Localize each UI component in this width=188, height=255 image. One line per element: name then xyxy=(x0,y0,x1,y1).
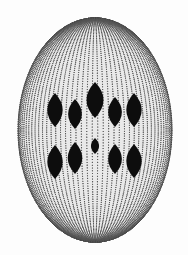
spindle-fiber-dot xyxy=(155,84,156,85)
spindle-fiber-dot xyxy=(154,115,155,116)
spindle-fiber-dot xyxy=(77,50,78,51)
spindle-fiber-dot xyxy=(138,82,139,83)
spindle-fiber-dot xyxy=(89,41,90,42)
spindle-fiber-dot xyxy=(51,207,52,208)
spindle-fiber-dot xyxy=(151,64,152,65)
spindle-fiber-dot xyxy=(36,106,37,107)
spindle-fiber-dot xyxy=(49,195,50,196)
spindle-fiber-dot xyxy=(109,55,110,56)
spindle-fiber-dot xyxy=(77,40,78,41)
spindle-fiber-dot xyxy=(106,190,107,191)
spindle-fiber-dot xyxy=(121,31,122,32)
spindle-fiber-dot xyxy=(51,53,52,54)
spindle-fiber-dot xyxy=(32,112,33,113)
spindle-fiber-dot xyxy=(33,68,34,69)
spindle-fiber-dot xyxy=(73,26,74,27)
spindle-fiber-dot xyxy=(123,66,124,67)
spindle-fiber-dot xyxy=(51,68,52,69)
spindle-fiber-dot xyxy=(154,65,155,66)
spindle-fiber-dot xyxy=(46,188,47,189)
spindle-fiber-dot xyxy=(93,226,94,227)
spindle-fiber-dot xyxy=(103,28,104,29)
spindle-fiber-dot xyxy=(159,169,160,170)
spindle-fiber-dot xyxy=(44,201,45,202)
spindle-fiber-dot xyxy=(115,191,116,192)
spindle-fiber-dot xyxy=(59,175,60,176)
spindle-fiber-dot xyxy=(118,194,119,195)
spindle-fiber-dot xyxy=(157,190,158,191)
spindle-fiber-dot xyxy=(38,169,39,170)
spindle-fiber-dot xyxy=(109,57,110,58)
spindle-fiber-dot xyxy=(99,219,100,220)
spindle-fiber-dot xyxy=(100,27,101,28)
spindle-fiber-dot xyxy=(60,60,61,61)
spindle-fiber-dot xyxy=(36,182,37,183)
spindle-fiber-dot xyxy=(38,132,39,133)
spindle-fiber-dot xyxy=(38,94,39,95)
spindle-fiber-dot xyxy=(125,75,126,76)
spindle-fiber-dot xyxy=(51,206,52,207)
spindle-fiber-dot xyxy=(139,198,140,199)
spindle-fiber-dot xyxy=(168,158,169,159)
spindle-fiber-dot xyxy=(143,73,144,74)
spindle-fiber-dot xyxy=(161,134,162,135)
spindle-fiber-dot xyxy=(167,118,168,119)
spindle-fiber-dot xyxy=(144,210,145,211)
spindle-fiber-dot xyxy=(86,231,87,232)
spindle-fiber-dot xyxy=(52,196,53,197)
spindle-fiber-dot xyxy=(133,219,134,220)
spindle-fiber-dot xyxy=(121,230,122,231)
spindle-fiber-dot xyxy=(110,217,111,218)
spindle-fiber-dot xyxy=(154,89,155,90)
spindle-fiber-dot xyxy=(125,181,126,182)
spindle-fiber-dot xyxy=(40,158,41,159)
spindle-fiber-dot xyxy=(51,125,52,126)
spindle-fiber-dot xyxy=(120,214,121,215)
spindle-fiber-dot xyxy=(143,121,144,122)
spindle-fiber-dot xyxy=(66,107,67,108)
spindle-fiber-dot xyxy=(30,102,31,103)
spindle-fiber-dot xyxy=(140,214,141,215)
spindle-fiber-dot xyxy=(92,205,93,206)
spindle-fiber-dot xyxy=(111,233,112,234)
spindle-fiber-dot xyxy=(114,45,115,46)
spindle-fiber-dot xyxy=(87,233,88,234)
spindle-fiber-dot xyxy=(43,195,44,196)
spindle-fiber-dot xyxy=(38,179,39,180)
spindle-fiber-dot xyxy=(75,226,76,227)
spindle-fiber-dot xyxy=(131,69,132,70)
spindle-fiber-dot xyxy=(105,231,106,232)
spindle-fiber-dot xyxy=(95,23,96,24)
spindle-fiber-dot xyxy=(71,102,72,103)
spindle-fiber-dot xyxy=(140,48,141,49)
spindle-fiber-dot xyxy=(81,144,82,145)
spindle-fiber-dot xyxy=(61,201,62,202)
spindle-fiber-dot xyxy=(74,28,75,29)
spindle-fiber-dot xyxy=(165,167,166,168)
spindle-fiber-dot xyxy=(108,128,109,129)
spindle-fiber-dot xyxy=(28,79,29,80)
spindle-fiber-dot xyxy=(154,68,155,69)
spindle-fiber-dot xyxy=(122,32,123,33)
spindle-fiber-dot xyxy=(125,78,126,79)
spindle-fiber-dot xyxy=(43,188,44,189)
spindle-fiber-dot xyxy=(135,40,136,41)
spindle-fiber-dot xyxy=(36,157,37,158)
spindle-fiber-dot xyxy=(21,107,22,108)
spindle-fiber-dot xyxy=(126,65,127,66)
spindle-fiber-dot xyxy=(147,192,148,193)
spindle-fiber-dot xyxy=(92,58,93,59)
spindle-fiber-dot xyxy=(69,225,70,226)
spindle-fiber-dot xyxy=(46,172,47,173)
spindle-fiber-dot xyxy=(160,76,161,77)
spindle-fiber-dot xyxy=(29,171,30,172)
spindle-fiber-dot xyxy=(164,152,165,153)
figure-container: Mitotic spindle schematic Ellipsoidal ce… xyxy=(0,0,188,255)
spindle-fiber-dot xyxy=(145,206,146,207)
spindle-fiber-dot xyxy=(119,231,120,232)
spindle-fiber-dot xyxy=(140,58,141,59)
spindle-fiber-dot xyxy=(28,77,29,78)
spindle-fiber-dot xyxy=(159,177,160,178)
spindle-fiber-dot xyxy=(76,28,77,29)
spindle-fiber-dot xyxy=(84,38,85,39)
